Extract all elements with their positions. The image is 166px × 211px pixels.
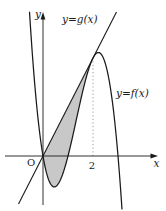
f-curve-label: y=f(x)	[115, 87, 149, 99]
g-curve-label: y=g(x)	[61, 13, 98, 25]
y-axis-label: y	[34, 8, 42, 20]
math-figure: y=g(x) y=f(x) y x O 2	[0, 0, 166, 211]
x-axis-label: x	[154, 157, 160, 169]
figure-canvas: y=g(x) y=f(x) y x O 2	[0, 0, 166, 211]
g-line	[19, 12, 117, 204]
x-tick-label-2: 2	[89, 160, 95, 171]
y-axis-arrowhead	[41, 12, 46, 20]
shaded-region	[43, 58, 93, 187]
origin-label: O	[27, 157, 35, 168]
